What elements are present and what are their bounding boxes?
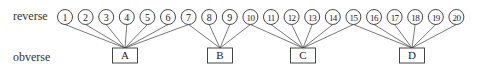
- obverse-die-label: C: [299, 49, 306, 61]
- die-link-line: [189, 25, 220, 49]
- reverse-die-15: 15: [346, 10, 361, 25]
- reverse-die-label: 9: [227, 12, 232, 23]
- reverse-die-label: 11: [267, 13, 275, 23]
- reverse-die-2: 2: [78, 10, 93, 25]
- die-link-line: [250, 25, 303, 49]
- reverse-die-6: 6: [161, 10, 176, 25]
- obverse-die-label: A: [121, 49, 129, 61]
- reverse-die-16: 16: [367, 10, 382, 25]
- obverse-die-A: A: [113, 48, 138, 63]
- die-link-line: [412, 25, 415, 49]
- reverse-die-label: 16: [370, 13, 379, 23]
- reverse-die-19: 19: [428, 10, 443, 25]
- die-link-line: [209, 25, 220, 49]
- die-link-line: [412, 25, 436, 49]
- reverse-die-10: 10: [243, 10, 258, 25]
- obverse-die-D: D: [400, 48, 425, 63]
- die-link-line: [125, 25, 127, 49]
- diagram-canvas: 1234567891011121314151617181920 ABCD: [0, 0, 481, 72]
- reverse-die-13: 13: [305, 10, 320, 25]
- reverse-die-4: 4: [119, 10, 134, 25]
- reverse-die-label: 12: [288, 13, 296, 23]
- reverse-die-label: 5: [145, 12, 150, 23]
- die-link-line: [125, 25, 168, 49]
- die-link-diagram: reverse obverse 123456789101112131415161…: [0, 0, 481, 72]
- reverse-die-9: 9: [222, 10, 237, 25]
- reverse-die-label: 18: [411, 13, 420, 23]
- reverse-die-label: 4: [124, 12, 129, 23]
- reverse-die-label: 10: [246, 13, 255, 23]
- reverse-die-14: 14: [325, 10, 340, 25]
- reverse-die-label: 3: [104, 12, 109, 23]
- reverse-die-11: 11: [264, 10, 279, 25]
- reverse-die-label: 17: [391, 13, 400, 23]
- die-link-line: [125, 25, 189, 49]
- links-layer: [65, 25, 456, 49]
- die-link-line: [125, 25, 147, 49]
- reverse-die-label: 1: [63, 12, 68, 23]
- obverse-row-label: obverse: [13, 50, 50, 65]
- obverse-die-B: B: [208, 48, 233, 63]
- reverse-die-label: 6: [166, 12, 171, 23]
- reverse-row-label: reverse: [13, 9, 48, 24]
- reverse-die-12: 12: [284, 10, 299, 25]
- reverse-die-7: 7: [181, 10, 196, 25]
- reverse-die-18: 18: [408, 10, 423, 25]
- reverse-die-label: 2: [83, 12, 88, 23]
- reverse-die-20: 20: [449, 10, 464, 25]
- reverse-die-label: 15: [349, 13, 358, 23]
- reverse-die-label: 19: [432, 13, 441, 23]
- reverse-die-5: 5: [140, 10, 155, 25]
- reverse-die-label: 7: [186, 12, 191, 23]
- die-link-line: [292, 25, 303, 49]
- reverse-die-label: 8: [207, 12, 212, 23]
- reverse-die-label: 13: [308, 13, 317, 23]
- reverse-die-3: 3: [99, 10, 114, 25]
- reverse-die-8: 8: [202, 10, 217, 25]
- reverse-die-label: 20: [452, 13, 461, 23]
- reverse-die-17: 17: [387, 10, 402, 25]
- reverse-dies-layer: 1234567891011121314151617181920: [58, 10, 464, 25]
- obverse-die-C: C: [291, 48, 316, 63]
- die-link-line: [374, 25, 412, 49]
- obverse-die-label: B: [216, 49, 223, 61]
- reverse-die-label: 14: [329, 13, 338, 23]
- reverse-die-1: 1: [58, 10, 73, 25]
- obverse-die-label: D: [408, 49, 416, 61]
- die-link-line: [412, 25, 456, 49]
- obverse-dies-layer: ABCD: [113, 48, 425, 63]
- die-link-line: [86, 25, 125, 49]
